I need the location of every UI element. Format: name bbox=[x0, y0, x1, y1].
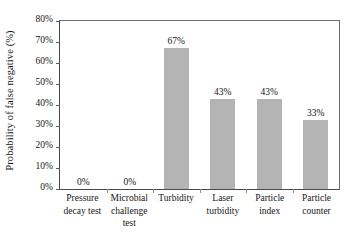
bar[interactable]: 33% bbox=[303, 120, 328, 189]
x-axis-category-label-line2: challenge test bbox=[107, 205, 152, 230]
y-tick-label: 0% bbox=[40, 182, 53, 192]
bar-slot: 0% bbox=[60, 21, 107, 189]
y-tick-label: 10% bbox=[36, 161, 53, 171]
y-tick-label: 30% bbox=[36, 119, 53, 129]
y-tick-label: 20% bbox=[36, 140, 53, 150]
x-axis-category-label-line1: Microbial bbox=[111, 193, 148, 203]
x-axis-category-label-line2: decay test bbox=[60, 205, 105, 218]
bar-value-label: 33% bbox=[307, 108, 324, 118]
y-tick-label: 50% bbox=[36, 77, 53, 87]
bar[interactable]: 43% bbox=[257, 99, 282, 189]
x-axis-category-label-line1: Turbidity bbox=[158, 193, 194, 203]
x-axis-category-label: Turbidity bbox=[153, 192, 200, 230]
bar-slot: 0% bbox=[107, 21, 154, 189]
x-axis-category-label-line1: Pressure bbox=[66, 193, 98, 203]
bar-slot: 43% bbox=[246, 21, 293, 189]
plot-area: 0%10%20%30%40%50%60%70%80% 0%0%67%43%43%… bbox=[59, 20, 340, 190]
x-axis-category-label: Laserturbidity bbox=[199, 192, 246, 230]
x-axis-category-label-line1: Particle bbox=[302, 193, 331, 203]
y-tick-label: 60% bbox=[36, 56, 53, 66]
y-tick-label: 40% bbox=[36, 98, 53, 108]
x-axis-category-label-line2: index bbox=[247, 205, 292, 218]
x-axis-category-label-line2: turbidity bbox=[200, 205, 245, 218]
x-axis-category-label: Microbialchallenge test bbox=[106, 192, 153, 230]
x-axis-category-label: Pressuredecay test bbox=[59, 192, 106, 230]
bar-slot: 67% bbox=[153, 21, 200, 189]
y-tick-label: 80% bbox=[36, 14, 53, 24]
bar-value-label: 0% bbox=[77, 177, 90, 187]
y-axis-title-text: Probability of false negative (%) bbox=[4, 30, 15, 170]
x-axis-labels: Pressuredecay testMicrobialchallenge tes… bbox=[59, 192, 340, 230]
bar-value-label: 43% bbox=[261, 87, 278, 97]
y-axis-title: Probability of false negative (%) bbox=[0, 0, 18, 200]
x-axis-category-label: Particleindex bbox=[246, 192, 293, 230]
x-axis-category-label-line2: counter bbox=[294, 205, 339, 218]
bar[interactable]: 43% bbox=[210, 99, 235, 189]
bar-value-label: 0% bbox=[123, 177, 136, 187]
x-axis-category-label-line1: Particle bbox=[255, 193, 284, 203]
bar-slot: 43% bbox=[200, 21, 247, 189]
x-axis-category-label-line1: Laser bbox=[212, 193, 233, 203]
bar-chart: Probability of false negative (%) 0%10%2… bbox=[0, 0, 355, 239]
bars-layer: 0%0%67%43%43%33% bbox=[60, 21, 339, 189]
bar-value-label: 67% bbox=[168, 36, 185, 46]
bar-value-label: 43% bbox=[214, 87, 231, 97]
y-tick-label: 70% bbox=[36, 35, 53, 45]
bar-slot: 33% bbox=[293, 21, 340, 189]
x-axis-category-label: Particlecounter bbox=[293, 192, 340, 230]
bar[interactable]: 67% bbox=[164, 48, 189, 189]
